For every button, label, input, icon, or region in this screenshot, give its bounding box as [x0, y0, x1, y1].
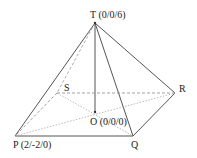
point-T — [94, 22, 96, 24]
label-T: T (0/0/6) — [90, 9, 126, 21]
edge-QR — [133, 93, 175, 136]
point-O — [94, 111, 96, 113]
edge-TS — [57, 23, 95, 93]
edge-TP — [15, 23, 95, 136]
pyramid-diagram: T (0/0/6) S R O (0/0/0) P (2/-2/0) Q — [0, 0, 197, 158]
label-S: S — [64, 82, 70, 93]
label-O: O (0/0/0) — [90, 116, 127, 128]
label-P: P (2/-2/0) — [13, 139, 51, 151]
label-R: R — [179, 83, 186, 94]
edge-SP — [15, 93, 57, 136]
label-Q: Q — [131, 139, 139, 150]
